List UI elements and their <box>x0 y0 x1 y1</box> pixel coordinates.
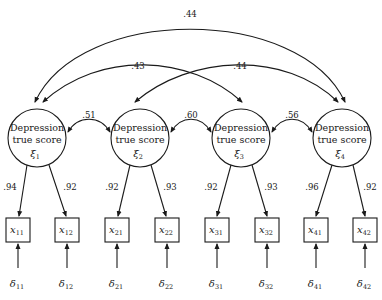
error-delta11: δ11 <box>10 278 24 291</box>
error-delta42: δ42 <box>357 278 371 291</box>
corr-arc-xi3-xi4 <box>272 119 312 132</box>
corr-arc-xi1-xi4 <box>35 29 345 102</box>
error-delta12: δ12 <box>59 278 73 291</box>
latent-factor-xi2: Depression true score ξ2 <box>111 109 169 167</box>
error-delta21: δ21 <box>109 278 123 291</box>
latent-factor-xi4: Depression true score ξ4 <box>313 109 371 167</box>
svg-text:.92: .92 <box>105 182 119 192</box>
error-delta32: δ32 <box>259 278 273 291</box>
corr-label-xi1-xi4: .44 <box>183 9 197 19</box>
indicator-x12: x12 <box>55 218 79 242</box>
loading-labels: .94 .92 .92 .93 .92 .93 .96 .92 <box>3 182 377 192</box>
svg-text:.92: .92 <box>204 182 218 192</box>
indicator-x22: x22 <box>155 218 179 242</box>
svg-text:.96: .96 <box>305 182 319 192</box>
svg-text:.93: .93 <box>264 182 278 192</box>
indicator-x31: x31 <box>205 218 229 242</box>
error-delta22: δ22 <box>159 278 173 291</box>
corr-label-xi3-xi4: .56 <box>285 110 299 120</box>
error-arrows <box>18 244 365 268</box>
indicator-x11: x11 <box>6 218 30 242</box>
path-diagram: .44 .43 .44 .51 .60 .56 Depression true … <box>0 0 382 300</box>
svg-text:Depression: Depression <box>214 122 268 133</box>
indicator-x41: x41 <box>304 218 328 242</box>
indicator-x42: x42 <box>353 218 377 242</box>
indicator-x32: x32 <box>255 218 279 242</box>
latent-factor-xi3: Depression true score ξ3 <box>212 109 270 167</box>
indicator-boxes: x11 x12 x21 x22 x31 x32 x41 x42 <box>6 218 377 242</box>
long-correlation-arcs: .44 .43 .44 <box>35 9 345 102</box>
corr-arc-xi2-xi3 <box>171 119 211 132</box>
svg-text:true score: true score <box>317 134 367 145</box>
svg-text:.93: .93 <box>163 182 177 192</box>
indicator-x21: x21 <box>105 218 129 242</box>
svg-text:.92: .92 <box>363 182 377 192</box>
svg-text:Depression: Depression <box>10 122 64 133</box>
corr-label-xi2-xi4: .44 <box>233 61 247 71</box>
svg-text:true score: true score <box>12 134 62 145</box>
corr-arc-xi1-xi2 <box>68 119 110 132</box>
error-delta41: δ41 <box>308 278 322 291</box>
svg-text:Depression: Depression <box>113 122 167 133</box>
svg-text:.94: .94 <box>3 182 17 192</box>
svg-text:.92: .92 <box>63 182 77 192</box>
adjacent-correlation-arcs: .51 .60 .56 <box>68 110 312 132</box>
latent-factor-xi1: Depression true score ξ1 <box>8 109 66 167</box>
svg-text:true score: true score <box>115 134 165 145</box>
svg-text:true score: true score <box>216 134 266 145</box>
corr-label-xi1-xi2: .51 <box>82 110 96 120</box>
corr-label-xi2-xi3: .60 <box>184 110 198 120</box>
error-labels: δ11 δ12 δ21 δ22 δ31 δ32 δ41 δ42 <box>10 278 371 291</box>
error-delta31: δ31 <box>209 278 223 291</box>
corr-label-xi1-xi3: .43 <box>131 61 145 71</box>
svg-text:Depression: Depression <box>315 122 369 133</box>
